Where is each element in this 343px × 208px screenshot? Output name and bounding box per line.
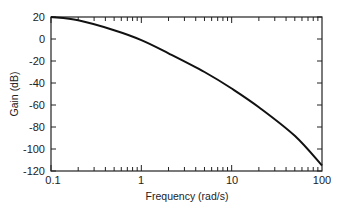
y-tick-label: 0 — [39, 33, 45, 45]
y-axis-label: Gain (dB) — [8, 72, 20, 117]
x-tick-label: 100 — [313, 174, 331, 186]
x-tick-label: 10 — [226, 174, 238, 186]
y-tick-label: -120 — [23, 165, 45, 177]
x-tick-labels: 0.1 1 10 100 — [45, 174, 331, 186]
plot-frame — [51, 17, 322, 171]
y-tick-label: 20 — [33, 11, 45, 23]
x-tick-label: 0.1 — [45, 174, 60, 186]
y-tick-label: -100 — [23, 143, 45, 155]
x-tick-label: 1 — [138, 174, 144, 186]
gain-curve — [51, 17, 322, 166]
y-tick-label: -40 — [29, 77, 45, 89]
y-tick-label: -60 — [29, 99, 45, 111]
y-tick-label: -80 — [29, 121, 45, 133]
gain-chart: 20 0 -20 -40 -60 -80 -100 -120 0.1 1 10 … — [0, 0, 343, 208]
ticks — [51, 17, 322, 171]
y-tick-labels: 20 0 -20 -40 -60 -80 -100 -120 — [23, 11, 45, 177]
x-axis-label: Frequency (rad/s) — [146, 190, 229, 202]
y-tick-label: -20 — [29, 55, 45, 67]
